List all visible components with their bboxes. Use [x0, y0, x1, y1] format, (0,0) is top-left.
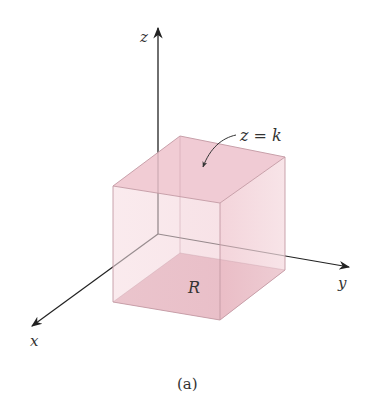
x-axis-label: x	[30, 332, 39, 350]
z-axis-label: z	[139, 28, 148, 46]
figure-caption: (a)	[177, 375, 198, 393]
y-axis-label: y	[337, 274, 347, 292]
diagram-canvas: z y x z = k R (a)	[0, 0, 378, 412]
box-front-face	[113, 186, 220, 320]
base-region-label: R	[187, 278, 200, 297]
top-face-label: z = k	[239, 126, 282, 145]
